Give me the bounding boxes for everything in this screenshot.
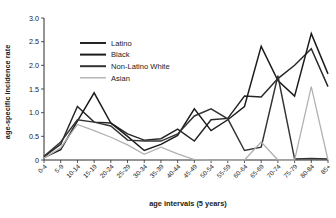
x-axis-tick-label: 65-69: [249, 162, 266, 179]
x-axis-tick-label: 40-44: [165, 162, 182, 179]
chart-legend: LatinoBlackNon-Latino WhiteAsian: [80, 39, 170, 83]
x-axis-tick-label: 25-29: [115, 162, 132, 179]
x-axis-tick-label: 35-39: [148, 162, 165, 179]
x-axis-tick-label: 55-59: [215, 162, 232, 179]
legend-label-latino: Latino: [111, 39, 132, 48]
x-axis-tick-label: 75-79: [282, 162, 299, 179]
series-line-latino: [44, 49, 328, 157]
x-axis-tick-label: 85+: [319, 163, 332, 176]
y-axis-tick-label: 1.0: [29, 108, 39, 117]
series-lines: [44, 34, 328, 160]
y-axis-tick-label: 0: [35, 156, 39, 165]
chart-container: 00.51.01.52.02.53.0 0-45-910-1415-1920-2…: [0, 0, 336, 218]
x-axis-tick-label: 20-24: [98, 162, 115, 179]
legend-label-non-latino-white: Non-Latino White: [111, 62, 170, 71]
y-axis-tick-label: 2.0: [29, 61, 39, 70]
y-axis-tick-label: 1.5: [29, 85, 39, 94]
y-axis-tick-label: 3.0: [29, 14, 39, 23]
incidence-rate-line-chart: 00.51.01.52.02.53.0 0-45-910-1415-1920-2…: [0, 0, 336, 218]
x-axis-tick-label: 60-64: [232, 162, 249, 179]
y-axis-title: age-specific incidence rate: [3, 45, 12, 139]
x-axis-tick-label: 50-54: [198, 162, 215, 179]
series-line-black: [44, 34, 328, 158]
x-axis-tick-label: 80-84: [299, 162, 316, 179]
x-axis-tick-label: 5-9: [53, 162, 65, 174]
x-axis-title: age intervals (5 years): [149, 199, 227, 208]
y-axis-tick-label: 0.5: [29, 132, 39, 141]
y-axis-tick-label: 2.5: [29, 37, 39, 46]
y-axis: 00.51.01.52.02.53.0: [29, 14, 44, 165]
x-axis-tick-label: 15-19: [82, 162, 99, 179]
legend-label-asian: Asian: [111, 74, 130, 83]
x-axis-tick-label: 70-74: [265, 162, 282, 179]
legend-label-black: Black: [111, 50, 130, 59]
x-axis-tick-label: 10-14: [65, 162, 82, 179]
x-axis-tick-label: 30-34: [132, 162, 149, 179]
x-axis-tick-label: 45-49: [182, 162, 199, 179]
x-axis: 0-45-910-1415-1920-2425-2930-3435-3940-4…: [36, 160, 332, 179]
